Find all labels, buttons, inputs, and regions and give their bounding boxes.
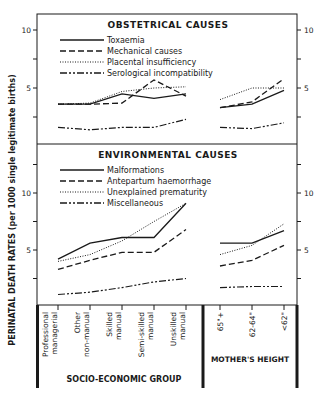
legend-label: Miscellaneous bbox=[107, 199, 163, 208]
line-antepartum-haemorrhage bbox=[220, 245, 284, 266]
y-tick-label-left: 5 bbox=[26, 84, 31, 93]
x-label-height: <62" bbox=[280, 312, 289, 331]
perinatal-death-rates-figure: 551010551010ProfessionalmanagerialOthern… bbox=[0, 0, 321, 398]
y-tick-label-left: 5 bbox=[26, 246, 31, 255]
line-mechanical-causes bbox=[58, 80, 186, 104]
x-label-socio: manual bbox=[146, 312, 155, 340]
line-mechanical-causes bbox=[220, 79, 284, 108]
group-label-height: MOTHER'S HEIGHT bbox=[211, 355, 290, 364]
x-label-socio: manual bbox=[178, 312, 187, 340]
panel-title-environmental: ENVIRONMENTAL CAUSES bbox=[98, 150, 238, 160]
y-tick-label-right: 10 bbox=[304, 26, 314, 35]
x-label-socio: Skilled bbox=[105, 312, 114, 337]
x-label-socio: Other bbox=[73, 311, 82, 333]
legend-label: Mechanical causes bbox=[107, 47, 182, 56]
x-label-socio: managerial bbox=[50, 312, 59, 354]
line-malformations bbox=[220, 231, 284, 244]
panel-title-obstetrical: OBSTETRICAL CAUSES bbox=[108, 20, 229, 30]
legend-label: Malformations bbox=[107, 166, 164, 175]
legend-label: Unexplained prematurity bbox=[107, 188, 207, 197]
y-tick-label-right: 5 bbox=[304, 84, 309, 93]
y-tick-label-left: 10 bbox=[21, 189, 31, 198]
x-label-socio: Semi-skilled bbox=[137, 312, 146, 358]
y-tick-label-right: 10 bbox=[304, 189, 314, 198]
line-serological-incompatibility bbox=[220, 123, 284, 129]
line-miscellaneous bbox=[220, 287, 284, 288]
x-label-height: 62-64" bbox=[248, 312, 257, 337]
x-label-socio: Unskilled bbox=[169, 312, 178, 346]
y-axis-label: PERINATAL DEATH RATES (per 1000 single l… bbox=[8, 74, 17, 345]
legend-label: Antepartum haemorrhage bbox=[107, 177, 211, 186]
line-toxaemia bbox=[220, 90, 284, 107]
x-label-socio: non-manual bbox=[82, 312, 91, 357]
line-placental-insufficiency bbox=[58, 87, 186, 104]
line-serological-incompatibility bbox=[58, 119, 186, 130]
legend-label: Placental insufficiency bbox=[107, 58, 196, 67]
group-label-socio: SOCIO-ECONOMIC GROUP bbox=[67, 375, 182, 384]
line-miscellaneous bbox=[58, 279, 186, 295]
line-malformations bbox=[58, 203, 186, 259]
legends: ToxaemiaMechanical causesPlacental insuf… bbox=[60, 36, 213, 208]
legend-label: Serological incompatibility bbox=[107, 69, 213, 78]
legend-label: Toxaemia bbox=[106, 36, 145, 45]
x-label-socio: Professional bbox=[41, 312, 50, 357]
y-tick-label-right: 5 bbox=[304, 246, 309, 255]
x-label-socio: manual bbox=[114, 312, 123, 340]
x-label-height: 65"+ bbox=[216, 312, 225, 331]
y-tick-label-left: 10 bbox=[21, 26, 31, 35]
data-series bbox=[58, 79, 284, 295]
